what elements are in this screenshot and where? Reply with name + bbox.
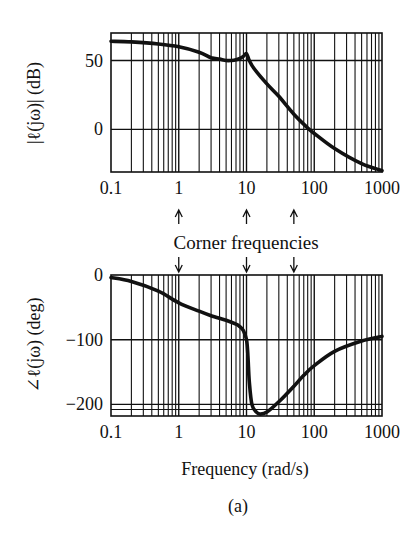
magnitude-y-tick-labels: 500	[85, 51, 103, 140]
arrow-up-icon	[290, 210, 297, 224]
x-tick-label: 100	[301, 422, 328, 442]
y-tick-label: 0	[94, 265, 103, 285]
magnitude-y-axis-label: |ℓ(jω)| (dB)	[24, 62, 45, 144]
x-tick-label: 1000	[364, 178, 400, 198]
y-tick-label: 0	[94, 119, 103, 139]
down-arrow-icons	[175, 257, 297, 272]
arrow-down-icon	[243, 257, 250, 272]
x-tick-label: 1000	[364, 422, 400, 442]
up-arrow-icons	[175, 210, 297, 224]
x-axis-label: Frequency (rad/s)	[181, 459, 308, 480]
y-tick-label: −100	[66, 330, 103, 350]
phase-y-axis-label: ∠ℓ(jω) (deg)	[24, 297, 45, 392]
arrow-up-icon	[175, 210, 182, 224]
corner-frequencies-label: Corner frequencies	[173, 232, 318, 253]
phase-y-tick-labels: 0−100−200	[66, 265, 103, 414]
x-tick-label: 1	[174, 422, 183, 442]
x-tick-label: 10	[238, 178, 256, 198]
x-tick-label: 0.1	[100, 178, 123, 198]
arrow-down-icon	[290, 257, 297, 272]
bode-plot-figure: 500 0.11101001000 |ℓ(jω)| (dB) Corner fr…	[0, 0, 420, 538]
x-tick-label: 100	[301, 178, 328, 198]
corner-frequencies-annotation: Corner frequencies	[173, 210, 318, 272]
magnitude-plot: 500 0.11101001000 |ℓ(jω)| (dB)	[24, 33, 400, 198]
phase-plot: 0−100−200 0.11101001000 ∠ℓ(jω) (deg)	[24, 265, 400, 442]
arrow-up-icon	[243, 210, 250, 224]
y-tick-label: −200	[66, 394, 103, 414]
x-tick-label: 10	[238, 422, 256, 442]
arrow-down-icon	[175, 257, 182, 272]
y-tick-label: 50	[85, 51, 103, 71]
magnitude-x-tick-labels: 0.11101001000	[100, 178, 400, 198]
x-tick-label: 0.1	[100, 422, 123, 442]
x-tick-label: 1	[174, 178, 183, 198]
phase-x-tick-labels: 0.11101001000	[100, 422, 400, 442]
figure-caption: (a)	[228, 496, 248, 517]
